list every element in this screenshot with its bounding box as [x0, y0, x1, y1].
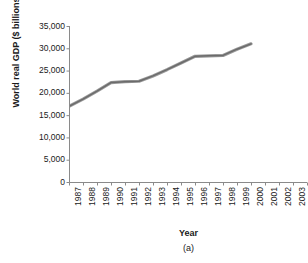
- x-tick-label: 1994: [171, 187, 181, 206]
- x-tick-label: 2001: [269, 187, 279, 206]
- x-tick-label: 1990: [115, 187, 125, 206]
- x-tick-label: 1995: [185, 187, 195, 206]
- x-tick-label: 2000: [255, 187, 265, 206]
- x-tick-label: 1987: [73, 187, 83, 206]
- x-tick-label: 1993: [157, 187, 167, 206]
- x-tick-label: 1991: [129, 187, 139, 206]
- x-tick-label: 1992: [143, 187, 153, 206]
- x-tick-label: 1989: [101, 187, 111, 206]
- x-axis-title: Year: [69, 228, 308, 238]
- figure-caption: (a): [69, 243, 308, 253]
- x-tick-label: 1999: [241, 187, 251, 206]
- x-tick-label: 1998: [227, 187, 237, 206]
- x-axis-tick-labels: 1987198819891990199119921993199419951996…: [0, 0, 308, 263]
- x-tick-label: 2003: [297, 187, 307, 206]
- x-tick-label: 1988: [87, 187, 97, 206]
- x-tick-label: 1997: [213, 187, 223, 206]
- x-tick-label: 1996: [199, 187, 209, 206]
- chart-figure: World real GDP ($ billions) 05,00010,000…: [0, 0, 308, 263]
- x-tick-label: 2002: [283, 187, 293, 206]
